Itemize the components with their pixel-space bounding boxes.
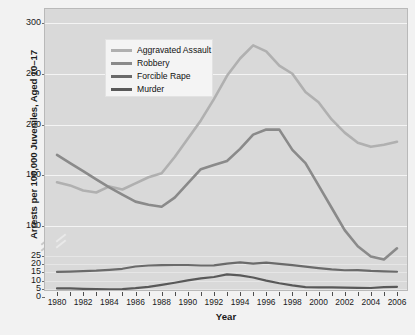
x-tick-mark-1982 bbox=[83, 292, 84, 296]
series-line-robbery bbox=[57, 130, 397, 260]
series-line-murder bbox=[57, 274, 397, 289]
y-tick-label-100: 100 bbox=[15, 220, 41, 230]
legend-swatch-robbery bbox=[111, 62, 132, 65]
x-tick-mark-1981 bbox=[70, 292, 71, 296]
plot-area: Aggravated Assault Robbery Forcible Rape… bbox=[44, 8, 408, 291]
x-tick-mark-1986 bbox=[136, 292, 137, 296]
x-tick-mark-1980 bbox=[57, 292, 58, 296]
x-axis-title: Year bbox=[44, 311, 408, 322]
legend-item-robbery: Robbery bbox=[111, 57, 208, 70]
x-tick-mark-2006 bbox=[397, 292, 398, 296]
legend-label-murder: Murder bbox=[137, 83, 164, 96]
legend-swatch-forcible-rape bbox=[111, 75, 132, 78]
x-tick-mark-1994 bbox=[240, 292, 241, 296]
x-tick-mark-1984 bbox=[109, 292, 110, 296]
chart-screenshot: Arrests per 100,000 Juveniles, Aged 10–1… bbox=[0, 0, 415, 335]
x-tick-mark-1993 bbox=[227, 292, 228, 296]
y-tick-label-25: 25 bbox=[15, 250, 41, 260]
y-tick-label-150: 150 bbox=[15, 169, 41, 179]
y-tick-label-200: 200 bbox=[15, 119, 41, 129]
x-tick-mark-2003 bbox=[358, 292, 359, 296]
x-tick-mark-1999 bbox=[306, 292, 307, 296]
y-axis-title: Arrests per 100,000 Juveniles, Aged 10–1… bbox=[28, 20, 39, 270]
x-tick-mark-1991 bbox=[201, 292, 202, 296]
series-lines bbox=[45, 9, 407, 290]
x-tick-mark-1988 bbox=[162, 292, 163, 296]
x-tick-label-2006: 2006 bbox=[382, 297, 412, 307]
x-tick-mark-1989 bbox=[175, 292, 176, 296]
x-tick-mark-1996 bbox=[266, 292, 267, 296]
legend-item-murder: Murder bbox=[111, 83, 208, 96]
x-tick-mark-1987 bbox=[149, 292, 150, 296]
legend-swatch-murder bbox=[111, 88, 132, 91]
x-tick-mark-1995 bbox=[253, 292, 254, 296]
x-tick-mark-1985 bbox=[122, 292, 123, 296]
series-line-forcible-rape bbox=[57, 262, 397, 272]
legend-item-aggravated-assault: Aggravated Assault bbox=[111, 44, 208, 57]
x-tick-mark-2001 bbox=[332, 292, 333, 296]
legend-label-aggravated-assault: Aggravated Assault bbox=[137, 44, 211, 57]
legend-swatch-aggravated-assault bbox=[111, 49, 132, 52]
y-tick-label-250: 250 bbox=[15, 68, 41, 78]
x-tick-mark-2005 bbox=[384, 292, 385, 296]
x-tick-mark-1998 bbox=[292, 292, 293, 296]
legend-label-forcible-rape: Forcible Rape bbox=[137, 70, 191, 83]
x-tick-mark-1990 bbox=[188, 292, 189, 296]
x-tick-mark-1997 bbox=[279, 292, 280, 296]
x-tick-mark-2004 bbox=[371, 292, 372, 296]
y-tick-label-300: 300 bbox=[15, 17, 41, 27]
legend-label-robbery: Robbery bbox=[137, 57, 169, 70]
x-tick-mark-2002 bbox=[345, 292, 346, 296]
x-tick-mark-1983 bbox=[96, 292, 97, 296]
x-tick-mark-1992 bbox=[214, 292, 215, 296]
x-tick-mark-2000 bbox=[319, 292, 320, 296]
legend: Aggravated Assault Robbery Forcible Rape… bbox=[105, 39, 213, 97]
legend-item-forcible-rape: Forcible Rape bbox=[111, 70, 208, 83]
